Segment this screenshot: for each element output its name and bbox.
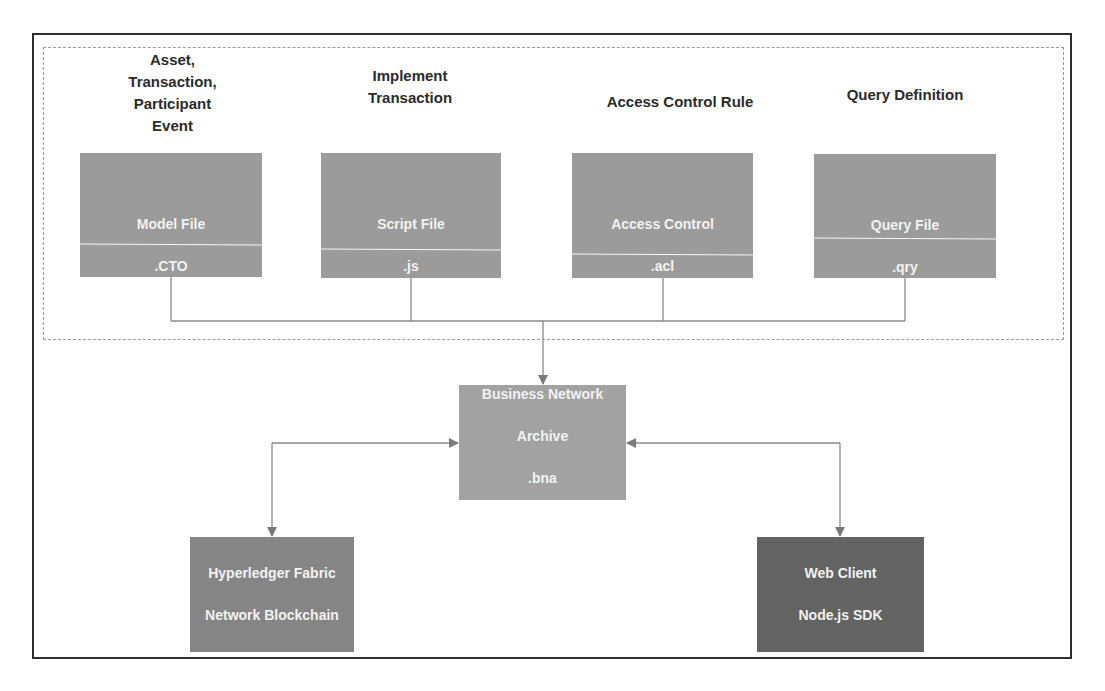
client-line2: Node.js SDK — [798, 605, 882, 626]
archive-subtitle: Archive — [482, 426, 603, 447]
archive-ext: .bna — [482, 468, 603, 489]
web-client-box: Web Client Node.js SDK — [757, 537, 924, 652]
client-line1: Web Client — [798, 563, 882, 584]
fabric-line1: Hyperledger Fabric — [205, 563, 339, 584]
hyperledger-fabric-box: Hyperledger Fabric Network Blockchain — [190, 537, 354, 652]
connector-lines — [0, 0, 1105, 691]
fabric-line2: Network Blockchain — [205, 605, 339, 626]
business-network-archive-box: Business Network Archive .bna — [459, 385, 626, 500]
archive-title: Business Network — [482, 384, 603, 405]
